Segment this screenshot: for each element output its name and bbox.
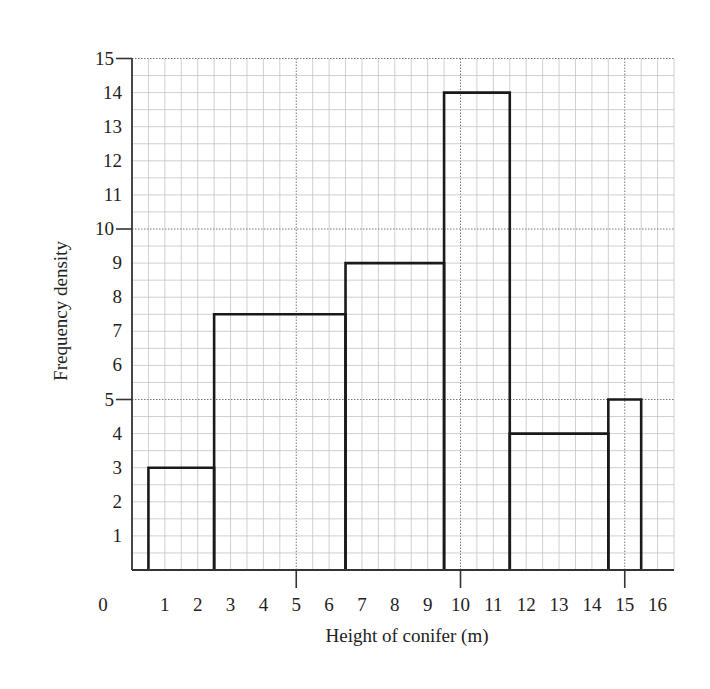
- x-tick-label: 8: [390, 594, 400, 615]
- x-tick-label: 13: [550, 594, 569, 615]
- y-tick-label: 14: [103, 82, 123, 103]
- y-tick-label: 5: [105, 389, 115, 410]
- x-tick-label: 11: [484, 594, 502, 615]
- x-axis-label: Height of conifer (m): [325, 625, 488, 647]
- histogram-chart: 123456789101112131415 012345678910111213…: [0, 0, 710, 689]
- x-tick-label: 1: [160, 594, 170, 615]
- x-tick-label: 14: [582, 594, 602, 615]
- y-tick-label: 9: [113, 252, 123, 273]
- x-tick-label: 3: [226, 594, 236, 615]
- x-tick-label: 5: [292, 594, 302, 615]
- x-tick-label: 12: [517, 594, 536, 615]
- y-tick-label: 6: [113, 354, 123, 375]
- x-tick-label: 16: [648, 594, 667, 615]
- x-tick-label: 9: [423, 594, 433, 615]
- y-tick-label: 11: [104, 184, 122, 205]
- y-tick-label: 4: [113, 423, 123, 444]
- y-tick-label: 12: [103, 150, 122, 171]
- x-tick-label: 4: [259, 594, 269, 615]
- y-tick-label: 10: [95, 218, 114, 239]
- y-tick-label: 1: [113, 525, 123, 546]
- x-tick-label: 2: [193, 594, 203, 615]
- x-axis-ticks: 012345678910111213141516: [98, 570, 667, 615]
- y-tick-label: 2: [113, 491, 123, 512]
- y-tick-label: 13: [103, 116, 122, 137]
- y-axis-ticks: 123456789101112131415: [95, 48, 132, 546]
- x-tick-label: 0: [98, 594, 108, 615]
- x-tick-label: 15: [615, 594, 634, 615]
- y-tick-label: 8: [113, 286, 123, 307]
- y-tick-label: 7: [113, 320, 123, 341]
- y-tick-label: 15: [95, 48, 114, 69]
- x-tick-label: 6: [324, 594, 334, 615]
- y-axis-label: Frequency density: [50, 241, 71, 381]
- y-tick-label: 3: [113, 457, 123, 478]
- x-tick-label: 7: [357, 594, 367, 615]
- x-tick-label: 10: [451, 594, 470, 615]
